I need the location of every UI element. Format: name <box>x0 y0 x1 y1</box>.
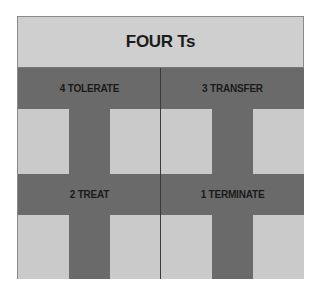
quadrant-treat: 2 TREAT <box>18 174 161 279</box>
quadrant-tolerate: 4 TOLERATE <box>18 68 161 174</box>
quadrant-label: 2 TREAT <box>70 189 110 200</box>
quadrant-label: 3 TRANSFER <box>202 83 263 94</box>
four-ts-diagram: FOUR Ts 4 TOLERATE 3 TRANSFER 2 TREAT 1 … <box>17 16 304 279</box>
diagram-title: FOUR Ts <box>126 32 195 52</box>
t-bar: 1 TERMINATE <box>161 174 304 215</box>
quadrant-terminate: 1 TERMINATE <box>161 174 304 279</box>
quadrant-label: 1 TERMINATE <box>201 189 265 200</box>
t-bar: 4 TOLERATE <box>18 68 161 109</box>
quadrant-transfer: 3 TRANSFER <box>161 68 304 174</box>
diagram-header: FOUR Ts <box>18 17 303 68</box>
quadrant-label: 4 TOLERATE <box>60 83 119 94</box>
vertical-divider <box>160 68 161 279</box>
t-bar: 2 TREAT <box>18 174 161 215</box>
t-bar: 3 TRANSFER <box>161 68 304 109</box>
